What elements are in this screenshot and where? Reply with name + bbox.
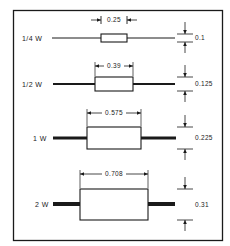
resistor-body: [95, 77, 133, 91]
diameter-value: 0.31: [195, 201, 209, 208]
length-value: 0.708: [105, 170, 123, 177]
arrowhead-up-icon: [183, 42, 187, 46]
resistor-body: [80, 189, 148, 220]
diameter-dimension: 0.1: [177, 22, 205, 53]
arrowhead-right-icon: [97, 18, 101, 22]
length-dimension: 0.575: [87, 109, 141, 126]
arrowhead-right-icon: [137, 111, 141, 115]
arrowhead-down-icon: [183, 73, 187, 77]
arrowhead-left-icon: [127, 18, 131, 22]
diameter-value: 0.125: [195, 80, 213, 87]
length-value: 0.25: [107, 16, 121, 23]
length-dimension: 0.708: [80, 170, 148, 188]
length-value: 0.575: [105, 109, 123, 116]
arrowhead-up-icon: [183, 220, 187, 224]
arrowhead-left-icon: [95, 64, 99, 68]
arrowhead-left-icon: [80, 172, 84, 176]
arrowhead-down-icon: [183, 185, 187, 189]
arrowhead-down-icon: [183, 30, 187, 34]
length-value: 0.39: [107, 62, 121, 69]
arrowhead-down-icon: [183, 123, 187, 127]
wattage-label: 1/2 W: [22, 81, 42, 88]
wattage-label: 1 W: [33, 135, 47, 142]
resistor-body: [87, 127, 141, 149]
diameter-value: 0.1: [195, 34, 205, 41]
diameter-dimension: 0.125: [177, 65, 213, 102]
resistor-group: 1/2 W0.390.125: [22, 62, 213, 102]
arrowhead-left-icon: [87, 111, 91, 115]
arrowhead-up-icon: [183, 91, 187, 95]
wattage-label: 2 W: [35, 201, 49, 208]
resistor-body: [101, 34, 127, 42]
diameter-dimension: 0.225: [177, 115, 213, 160]
resistor-group: 2 W0.7080.31: [35, 170, 209, 231]
diameter-value: 0.225: [195, 134, 213, 141]
arrowhead-right-icon: [144, 172, 148, 176]
arrowhead-right-icon: [129, 64, 133, 68]
resistor-size-diagram: 1/4 W0.250.11/2 W0.390.1251 W0.5750.2252…: [0, 0, 230, 246]
resistor-group: 1/4 W0.250.1: [22, 16, 205, 53]
length-dimension: 0.39: [95, 62, 133, 76]
diameter-dimension: 0.31: [177, 177, 209, 231]
arrowhead-up-icon: [183, 149, 187, 153]
resistor-group: 1 W0.5750.225: [33, 109, 213, 160]
wattage-label: 1/4 W: [22, 35, 42, 42]
length-dimension: 0.25: [91, 16, 137, 24]
